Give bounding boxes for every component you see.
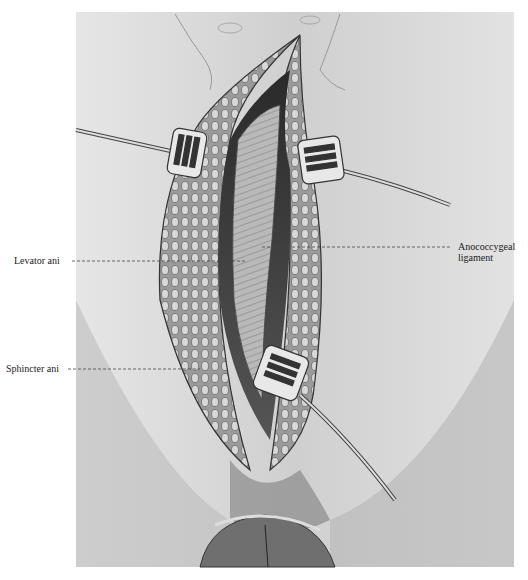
label-line-1: Anococcygeal: [458, 241, 515, 252]
anatomical-figure: Levator ani Sphincter ani Anococcygeal l…: [0, 0, 528, 580]
label-levator-ani: Levator ani: [14, 255, 60, 266]
label-sphincter-ani: Sphincter ani: [6, 363, 59, 374]
label-anococcygeal-ligament: Anococcygeal ligament: [458, 241, 515, 263]
label-line-2: ligament: [458, 252, 515, 263]
illustration: [0, 0, 528, 580]
